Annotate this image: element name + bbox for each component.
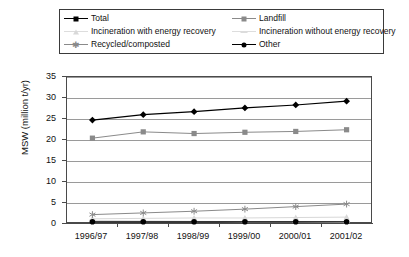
series-recycled-composted [89, 201, 349, 218]
data-point [292, 102, 299, 109]
data-point [89, 117, 96, 124]
series-other [90, 219, 350, 225]
data-point [344, 127, 349, 132]
data-point [293, 129, 298, 134]
data-point [140, 219, 146, 225]
data-series-layer [0, 0, 409, 257]
data-point [344, 219, 350, 225]
chart-container: Total Landfill Incineration with energy … [0, 0, 409, 257]
data-point [242, 219, 248, 225]
data-point [191, 131, 196, 136]
data-point [343, 98, 350, 105]
data-point [191, 219, 197, 225]
data-point [90, 136, 95, 141]
data-point [293, 219, 299, 225]
data-point [242, 105, 249, 112]
data-point [242, 130, 247, 135]
data-point [140, 111, 147, 118]
data-point [90, 219, 96, 225]
series-incineration-with-energy-recovery [89, 214, 349, 221]
series-total [89, 98, 350, 124]
data-point [141, 129, 146, 134]
series-landfill [90, 127, 349, 141]
data-point [191, 108, 198, 115]
